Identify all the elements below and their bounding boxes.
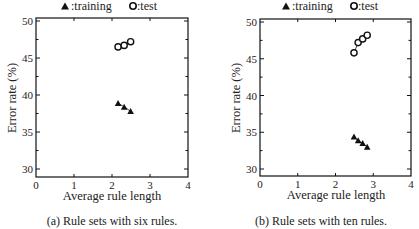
y-tick-label: 35	[246, 126, 258, 138]
legend-a: :training :test	[61, 0, 158, 13]
ticks-b	[260, 19, 411, 176]
plot-frame-a	[36, 18, 188, 177]
chart-panel-b: :training :test 01234 3035404550 Average…	[229, 0, 414, 228]
y-tick-label: 50	[246, 16, 258, 28]
x-tick-label: 4	[408, 178, 414, 190]
y-tick-label: 45	[22, 52, 34, 64]
y-tick-label: 35	[22, 126, 34, 138]
legend-training-label: :training	[71, 0, 112, 13]
series-a	[115, 39, 134, 114]
legend-test-label: :test	[358, 0, 379, 13]
legend-test-marker-icon	[130, 3, 136, 9]
y-tick-label: 30	[246, 163, 258, 175]
series-b	[351, 32, 371, 150]
chart-panel-a: :training :test 01234 3035404550 Average…	[5, 0, 191, 228]
y-tick-label: 50	[22, 15, 34, 27]
legend-training-marker-icon	[61, 3, 69, 10]
legend-test-marker-icon	[351, 3, 357, 9]
x-tick-label: 4	[185, 179, 191, 191]
figure: :training :test 01234 3035404550 Average…	[0, 0, 419, 229]
y-tick-labels-b: 3035404550	[246, 16, 258, 175]
data-point-test	[364, 32, 370, 38]
data-point-test	[128, 39, 134, 45]
data-point-test	[115, 44, 121, 50]
y-tick-labels-a: 3035404550	[22, 15, 34, 175]
y-tick-label: 40	[246, 90, 258, 102]
y-tick-label: 45	[246, 53, 258, 65]
data-point-training	[121, 104, 128, 110]
y-tick-label: 30	[22, 163, 34, 175]
caption-b: (b) Rule sets with ten rules.	[255, 214, 387, 228]
legend-training-label: :training	[292, 0, 333, 13]
data-point-training	[351, 133, 358, 139]
y-axis-title-b: Error rate (%)	[229, 63, 243, 133]
x-tick-label: 0	[33, 179, 39, 191]
ticks-a	[36, 18, 188, 177]
legend-b: :training :test	[282, 0, 379, 13]
x-tick-label: 0	[257, 178, 263, 190]
x-axis-title-b: Average rule length	[287, 188, 386, 202]
plot-frame-b	[260, 19, 411, 176]
data-point-training	[115, 100, 122, 106]
data-point-test	[121, 42, 127, 48]
legend-training-marker-icon	[282, 3, 290, 10]
y-tick-label: 40	[22, 89, 34, 101]
data-point-training	[127, 108, 134, 114]
data-point-test	[351, 50, 357, 56]
x-axis-title-a: Average rule length	[63, 189, 162, 203]
legend-test-label: :test	[137, 0, 158, 13]
y-axis-title-a: Error rate (%)	[5, 63, 19, 133]
caption-a: (a) Rule sets with six rules.	[47, 214, 178, 228]
